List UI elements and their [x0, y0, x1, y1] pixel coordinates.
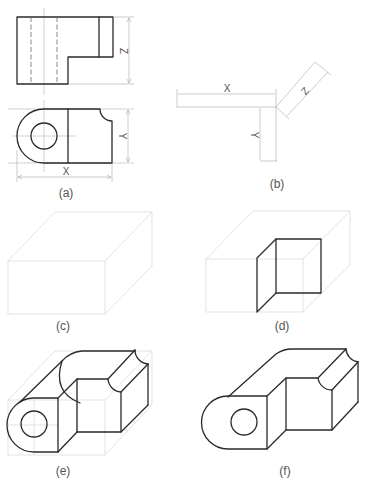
z-axis-cap-bottom: [276, 107, 289, 119]
notch-edge-right: [121, 364, 148, 392]
box-top-face: [8, 212, 152, 261]
step-lower-edge: [58, 432, 77, 452]
drawing-canvas: [0, 0, 368, 484]
middle-face: [77, 379, 121, 432]
z-axis-base: [276, 62, 315, 107]
z-dimension-label: Z: [118, 48, 129, 54]
panel-label-d: (d): [275, 319, 290, 333]
step-upper-edge: [267, 378, 286, 396]
guide-front-face: [8, 400, 105, 455]
bounding-box-c: [8, 212, 152, 314]
step-lower-edge: [267, 430, 286, 449]
box-front-face: [8, 261, 105, 314]
notch-edge-right: [332, 362, 358, 390]
z-axis-cap-top: [315, 62, 331, 75]
y-axis-label: Y: [249, 132, 260, 139]
panel-label-c: (c): [56, 319, 70, 333]
box-right-face: [303, 211, 350, 312]
bottom-right-edge: [332, 402, 358, 430]
front-view: [17, 8, 134, 95]
notch-edge-left: [318, 349, 346, 378]
panel-label-a: (a): [59, 186, 74, 200]
bottom-right-edge: [121, 405, 148, 432]
panel-label-f: (f): [279, 464, 290, 478]
box-right-face: [105, 212, 152, 314]
notch-edge-left: [108, 350, 135, 379]
y-dimension-label: Y: [117, 133, 128, 140]
lug-hole: [231, 409, 257, 435]
box-top-face: [206, 211, 350, 259]
middle-face: [286, 378, 332, 430]
box-front-face: [206, 259, 303, 312]
x-dimension-label: X: [63, 166, 70, 177]
notch-arc-back: [346, 349, 358, 362]
isometric-axes: [177, 62, 331, 161]
panel-label-b: (b): [270, 177, 285, 191]
x-axis-label: X: [224, 83, 231, 94]
bounding-box-d: [206, 211, 350, 312]
panel-label-e: (e): [56, 464, 71, 478]
construction-e: [7, 350, 152, 455]
isometric-f: [202, 349, 358, 449]
top-view: [8, 100, 134, 182]
